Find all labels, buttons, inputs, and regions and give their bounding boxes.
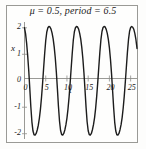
x-tick-label: 20 [104,83,116,92]
data-series-line [25,26,138,135]
x-tick-label: 25 [126,83,138,92]
y-tick-label: -2 [6,128,21,137]
y-tick-label: 1 [6,49,21,58]
plot-canvas [0,0,146,149]
y-tick-label: 2 [6,22,21,31]
x-tick-label: 15 [83,83,95,92]
y-tick-label: -1 [6,102,21,111]
x-tick-label: 0 [20,83,32,92]
chart-figure: μ = 0.5, period = 6.5 x t 0510152025 210… [0,0,146,149]
x-tick-label: 10 [62,83,74,92]
y-tick-label: 0 [6,75,21,84]
x-tick-label: 5 [41,83,53,92]
